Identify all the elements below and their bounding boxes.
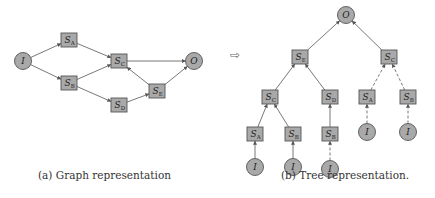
graph-node-SE: SE: [149, 84, 165, 98]
graph-edge-SE-to-SC: [127, 67, 149, 84]
tree-edge-t_SC2-to-t_SE: [275, 64, 295, 90]
tree-edge-t_SA2-to-t_SC: [371, 64, 385, 90]
tree-node-t_SA2: SA: [359, 90, 375, 104]
graph-caption: (a) Graph representation: [38, 169, 171, 181]
graph-node-O: O: [186, 53, 203, 70]
tree-edge-t_SD-to-t_SE: [305, 64, 325, 90]
tree-edge-t_SB3-to-t_SC2: [274, 104, 288, 127]
tree-node-t_SB2: SB: [400, 90, 416, 104]
tree-edge-t_SC-to-t_O: [352, 21, 382, 50]
tree-node-t_O: O: [338, 7, 355, 24]
graph-edge-SA-to-SC: [77, 43, 111, 57]
tree-edge-t_SB2-to-t_SC: [392, 64, 404, 90]
tree-node-t_SD: SD: [322, 90, 338, 104]
node-label: I: [364, 127, 369, 137]
graph-edge-SB-to-SD: [77, 87, 111, 102]
tree-node-t_SC2: SC: [262, 90, 278, 104]
tree-caption: (b) Tree representation.: [281, 169, 409, 181]
graph-edge-SD-to-SE: [127, 94, 149, 102]
node-label: I: [20, 56, 25, 66]
tree-node-t_SB3: SB: [285, 127, 301, 141]
graph-node-SC: SC: [111, 54, 127, 68]
transform-arrow-icon: ⇨: [230, 48, 240, 62]
tree-node-t_SA3: SA: [247, 127, 263, 141]
tree-node-t_I4: I: [359, 124, 376, 141]
node-label: I: [405, 127, 410, 137]
graph-node-SB: SB: [61, 76, 77, 90]
tree-node-t_I1: I: [247, 159, 264, 176]
graph-edge-SE-to-O: [165, 66, 187, 84]
graph-node-SA: SA: [61, 33, 77, 47]
tree-node-t_I5: I: [400, 124, 417, 141]
tree-edge-t_SA3-to-t_SC2: [258, 104, 267, 127]
node-label: O: [342, 10, 350, 20]
tree-nodes: OSESCSCSDSASBSASBSBIIIII: [247, 7, 417, 178]
node-label: I: [252, 162, 257, 172]
graph-edge-I-to-SB: [31, 65, 61, 80]
tree-node-t_SE: SE: [292, 50, 308, 64]
tree-node-t_SC: SC: [381, 50, 397, 64]
graph-node-SD: SD: [111, 98, 127, 112]
tree-edge-t_SE-to-t_O: [308, 21, 340, 50]
graph-node-I: I: [15, 53, 32, 70]
node-label: O: [190, 56, 198, 66]
graph-edge-SB-to-SC: [77, 65, 111, 80]
graph-edge-I-to-SA: [31, 44, 61, 58]
tree-node-t_SB4: SB: [322, 127, 338, 141]
